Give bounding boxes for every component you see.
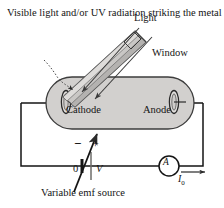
zero-voltage-label: 0 (73, 163, 78, 175)
cathode-label: Cathode (66, 104, 101, 116)
window-label: Window (152, 47, 188, 59)
anode-label: Anode (143, 104, 171, 116)
ammeter-label: A (163, 157, 169, 168)
diagram-canvas (0, 0, 224, 208)
caption-text: Visible light and/or UV radiation striki… (7, 6, 115, 19)
emf-source-label: Variable emf source (41, 187, 125, 199)
light-label: Light (134, 12, 157, 24)
positive-terminal-label: + (92, 137, 99, 151)
ammeter-symbol (159, 156, 179, 176)
current-label: I0 (178, 173, 185, 187)
negative-terminal-label: − (74, 136, 81, 151)
photoelectric-effect-diagram: Visible light and/or UV radiation striki… (0, 0, 224, 208)
current-subscript: 0 (181, 179, 185, 187)
voltage-label: V (96, 163, 102, 175)
